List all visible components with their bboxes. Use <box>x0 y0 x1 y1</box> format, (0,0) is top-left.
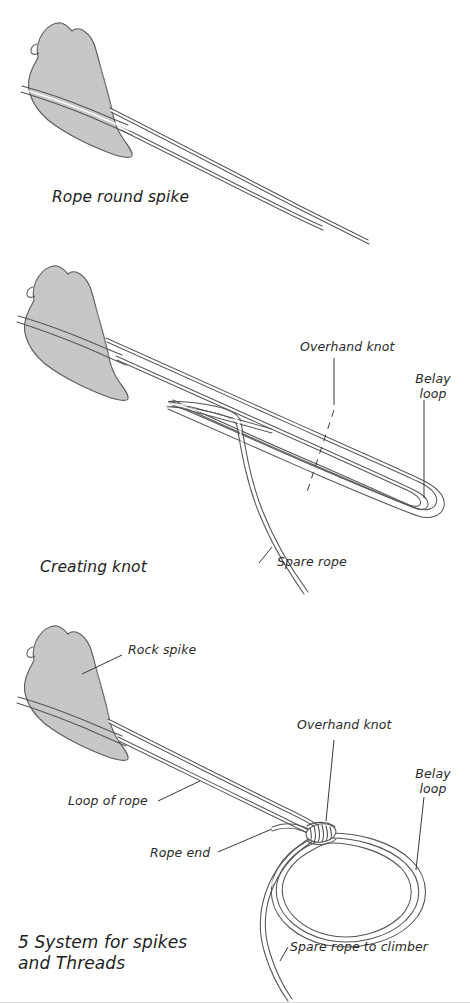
label-belay-loop-line1: Belay <box>415 371 450 386</box>
leader-belay-loop <box>416 797 424 870</box>
label-belay-loop: Belayloop <box>404 767 462 797</box>
label-belay-loop-line2: loop <box>419 386 446 401</box>
label-loop-of-rope: Loop of rope <box>68 794 148 809</box>
belay-loop-bight <box>106 338 444 518</box>
caption-system-for-spikes: 5 System for spikesand Threads <box>18 932 187 975</box>
overhand-knot-cluster <box>305 822 337 845</box>
caption-line1: 5 System for spikes <box>18 932 187 952</box>
label-belay-loop-line2: loop <box>419 781 446 796</box>
leader-rope-end <box>218 829 272 852</box>
label-spare-rope-to-climber: Spare rope to climber <box>290 940 428 955</box>
label-rope-end: Rope end <box>150 846 210 861</box>
leader-overhand-knot <box>326 740 334 821</box>
panel-system-for-spikes: Rock spike Overhand knot Belayloop Loop … <box>0 605 470 1003</box>
label-belay-loop: Belayloop <box>404 372 462 402</box>
label-rock-spike: Rock spike <box>128 643 196 658</box>
label-belay-loop-line1: Belay <box>415 766 450 781</box>
leader-spare-rope-to-climber <box>280 947 288 961</box>
caption-creating-knot: Creating knot <box>40 558 147 577</box>
leader-spare-rope <box>259 547 272 563</box>
caption-line2: and Threads <box>18 953 125 973</box>
panel-creating-knot: Overhand knot Belayloop Spare rope Creat… <box>0 250 470 605</box>
panel-rope-round-spike: Rope round spike <box>0 0 470 250</box>
caption-rope-round-spike: Rope round spike <box>52 188 189 207</box>
figure-root: Rope round spike <box>0 0 470 1003</box>
panel-2-illustration <box>0 250 470 605</box>
label-overhand-knot: Overhand knot <box>300 340 395 355</box>
rock-spike-shape <box>29 23 133 158</box>
leader-loop-of-rope <box>158 781 200 801</box>
panel-1-illustration <box>0 0 470 250</box>
label-overhand-knot: Overhand knot <box>297 718 392 733</box>
label-spare-rope: Spare rope <box>277 555 347 570</box>
rock-spike-shape <box>25 266 129 401</box>
leader-overhand-knot <box>306 358 334 495</box>
